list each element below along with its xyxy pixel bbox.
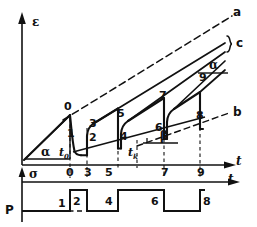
point-label-0: 0 [64,101,72,112]
load-square-wave [22,190,205,211]
point-label-4: 4 [120,131,128,142]
time-mark-tk: tk [128,147,138,160]
point-label-9: 9 [199,72,207,83]
lower-time-axis [22,178,240,185]
epsilon-axis-label: ε [32,16,39,28]
point-label-5: 5 [117,108,125,119]
tick-label-7: 7 [161,167,169,178]
tk-subscript: k [133,152,138,161]
lower-time-axis-label: t [228,173,234,185]
asymptote-line-a [63,16,232,120]
point-label-2: 2 [89,132,97,143]
load-segment-label-2: 2 [73,196,81,207]
asymptote-line-b [137,113,229,146]
upper-time-axis-label: t [236,155,242,167]
figure-canvas [0,0,257,227]
sigma-axis-label: σ [29,168,38,180]
point-label-1: 1 [67,128,75,139]
load-level-label: P [5,204,14,216]
load-segment-label-4: 4 [105,196,113,207]
time-mark-t0: t0 [59,147,69,160]
point-label-7: 7 [159,90,167,101]
point-label-3: 3 [89,118,97,129]
strain-curve [24,92,203,160]
tick-label-0: 0 [66,167,74,178]
tick-label-9: 9 [197,167,205,178]
point-label-6: 6 [155,122,163,133]
angle-alpha-upper-label: α [209,59,218,71]
asymptote-b-label: b [233,106,242,118]
sigma-axis [19,167,26,222]
angle-alpha-origin-label: α [41,146,50,158]
tick-label-3: 3 [84,167,92,178]
epsilon-axis [18,12,26,165]
load-segment-label-8: 8 [203,196,211,207]
bracket-c [227,36,232,52]
creep-recovery-figure: ε t a b c α α β t0 tk 0 1 2 3 4 5 6 7 8 … [0,0,257,227]
load-segment-label-1: 1 [58,198,66,209]
asymptote-a-label: a [233,6,241,18]
bracket-c-label: c [236,37,243,49]
point-label-8: 8 [196,110,204,121]
load-segment-label-6: 6 [151,196,159,207]
tick-label-5: 5 [105,167,113,178]
t0-subscript: 0 [64,152,69,161]
